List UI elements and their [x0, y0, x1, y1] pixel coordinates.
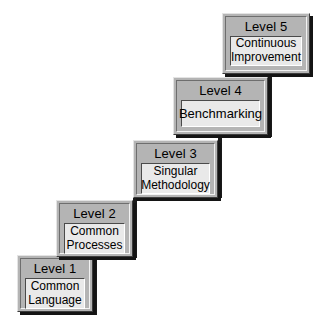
riser-1-2 — [93, 257, 97, 315]
step-level-5-line-2: Improvement — [231, 51, 301, 65]
step-level-5-bevel: Level 5 Continuous Improvement — [225, 16, 307, 71]
step-level-4-panel: Benchmarking — [181, 100, 260, 127]
step-level-1-line-1: Common — [31, 280, 80, 294]
step-level-2-line-1: Common — [70, 225, 119, 239]
step-level-3[interactable]: Level 3 Singular Methodology — [133, 140, 218, 198]
step-level-1-title: Level 1 — [25, 262, 85, 278]
riser-3-4 — [218, 135, 222, 198]
step-level-3-line-2: Methodology — [141, 179, 210, 193]
step-level-3-title: Level 3 — [141, 147, 210, 163]
step-level-4-title: Level 4 — [181, 84, 260, 100]
step-level-2-bevel: Level 2 Common Processes — [59, 203, 130, 254]
step-level-2[interactable]: Level 2 Common Processes — [56, 200, 133, 257]
step-level-1-bevel: Level 1 Common Language — [20, 258, 90, 309]
step-level-5[interactable]: Level 5 Continuous Improvement — [222, 13, 310, 74]
maturity-staircase-diagram: Level 1 Common Language Level 2 Common P… — [0, 0, 331, 329]
step-level-4-line-1: Benchmarking — [179, 107, 262, 121]
step-level-5-title: Level 5 — [230, 20, 302, 36]
riser-2-3 — [133, 197, 137, 258]
step-level-4-bevel: Level 4 Benchmarking — [176, 80, 265, 132]
riser-4-5 — [268, 72, 272, 137]
step-level-1[interactable]: Level 1 Common Language — [17, 255, 93, 312]
step-level-3-bevel: Level 3 Singular Methodology — [136, 143, 215, 195]
step-level-1-panel: Common Language — [25, 278, 85, 309]
step-level-5-line-1: Continuous — [236, 37, 297, 51]
step-level-3-line-1: Singular — [153, 165, 197, 179]
step-level-1-line-2: Language — [28, 294, 81, 308]
step-level-2-panel: Common Processes — [64, 223, 125, 254]
step-level-2-title: Level 2 — [64, 207, 125, 223]
step-level-2-line-2: Processes — [66, 239, 122, 253]
step-level-3-panel: Singular Methodology — [141, 163, 210, 194]
step-level-5-panel: Continuous Improvement — [230, 36, 302, 66]
step-level-4[interactable]: Level 4 Benchmarking — [173, 77, 268, 135]
